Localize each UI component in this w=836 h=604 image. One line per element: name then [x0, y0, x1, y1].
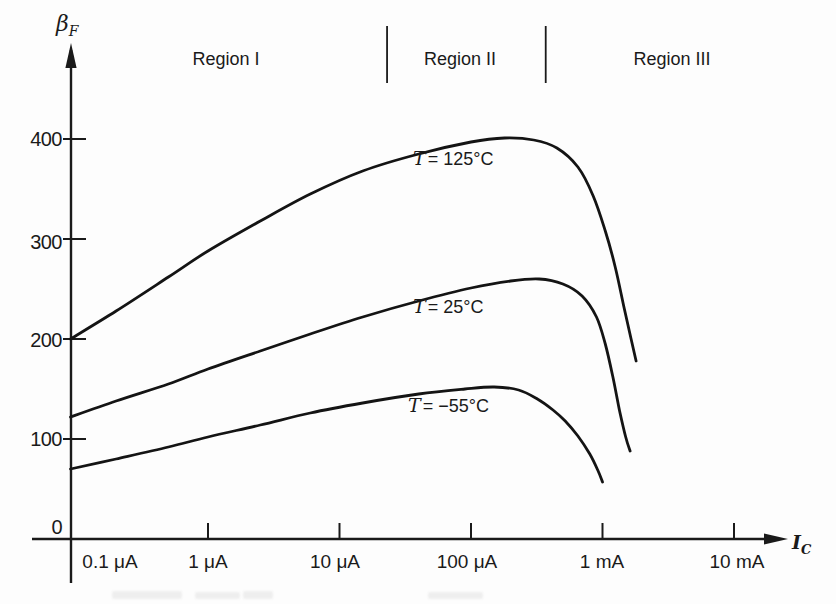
y-tick-label-0: 0 — [20, 516, 62, 538]
x-tick-label-1uA: 1 μA — [160, 551, 256, 573]
x-tick-label-10mA: 10 mA — [689, 551, 785, 573]
current-symbol: I — [792, 531, 801, 553]
y-tick-label-400: 400 — [20, 128, 62, 150]
cropped-caption-remnant — [428, 592, 483, 599]
region-label-2: Region II — [390, 49, 530, 70]
curve-1-125c — [71, 138, 637, 361]
x-tick-label-100uA: 100 μA — [419, 551, 515, 573]
y-tick-label-100: 100 — [20, 428, 62, 450]
x-tick-label-0p1uA: 0.1 μA — [62, 551, 158, 573]
y-tick-label-200: 200 — [20, 329, 62, 351]
current-subscript: C — [801, 542, 811, 557]
cropped-caption-remnant — [243, 591, 273, 599]
region-label-3: Region III — [602, 49, 742, 70]
x-tick-label-10uA: 10 μA — [287, 551, 383, 573]
curve-label-125c: T= 125°C — [413, 148, 493, 169]
y-axis-title: βF — [56, 12, 78, 43]
beta-subscript: F — [69, 23, 79, 39]
curve-label-25c: T= 25°C — [413, 296, 483, 317]
beta-symbol: β — [56, 11, 69, 36]
x-axis-title: IC — [792, 532, 811, 560]
y-tick-label-300: 300 — [20, 231, 62, 253]
y-axis-arrowhead — [65, 43, 76, 68]
curve-label-minus55c: T= −55°C — [408, 395, 489, 416]
beta-vs-ic-figure: βF IC 400 300 200 100 0 0.1 μA 1 μA 10 μ… — [0, 0, 836, 604]
temp-var-symbol: T — [413, 147, 428, 169]
x-axis-arrowhead — [764, 533, 788, 544]
curve-3-55c — [71, 387, 603, 482]
x-tick-label-1mA: 1 mA — [554, 551, 650, 573]
cropped-caption-remnant — [112, 591, 182, 599]
temp-var-symbol: T — [408, 394, 423, 416]
temp-var-symbol: T — [413, 295, 428, 317]
region-label-1: Region I — [156, 49, 296, 70]
curve-2-25c — [71, 279, 631, 451]
cropped-caption-remnant — [195, 592, 240, 599]
